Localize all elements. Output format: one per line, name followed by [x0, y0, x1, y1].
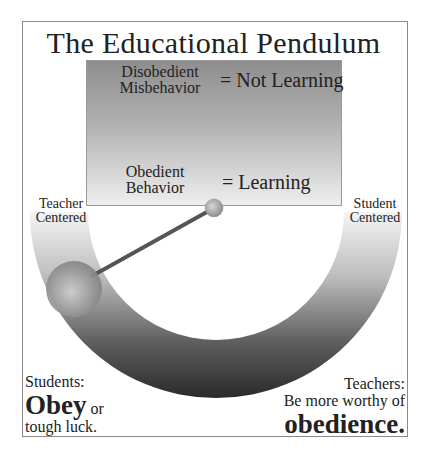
teachers-heading: Teachers:: [284, 376, 405, 393]
teacher-centered-label: Teacher Centered: [26, 197, 96, 225]
or-word: or: [87, 400, 104, 417]
obedient-line2: Behavior: [110, 180, 200, 196]
teachers-line2: Be more worthy of: [284, 393, 405, 410]
student-centered-label: Student Centered: [342, 197, 408, 225]
pendulum-pivot: [205, 199, 223, 217]
disobedient-label: Disobedient Misbehavior: [100, 64, 220, 96]
teachers-note: Teachers: Be more worthy of obedience.: [284, 376, 405, 438]
obedience-word: obedience.: [284, 410, 405, 438]
obey-word: Obey: [25, 390, 87, 420]
students-heading: Students:: [25, 374, 104, 391]
learning-label: = Learning: [222, 172, 310, 192]
pendulum-rod: [92, 208, 214, 276]
teacher-centered-line1: Teacher: [26, 197, 96, 211]
students-note: Students: Obey or tough luck.: [25, 374, 104, 436]
obedient-label: Obedient Behavior: [110, 164, 200, 196]
students-emphasis-line: Obey or: [25, 391, 104, 419]
student-centered-line1: Student: [342, 197, 408, 211]
disobedient-line2: Misbehavior: [100, 80, 220, 96]
pendulum-bob: [46, 261, 102, 317]
disobedient-line1: Disobedient: [100, 64, 220, 80]
teacher-centered-line2: Centered: [26, 211, 96, 225]
student-centered-line2: Centered: [342, 211, 408, 225]
not-learning-label: = Not Learning: [220, 70, 343, 90]
obedient-line1: Obedient: [110, 164, 200, 180]
students-line3: tough luck.: [25, 419, 104, 436]
